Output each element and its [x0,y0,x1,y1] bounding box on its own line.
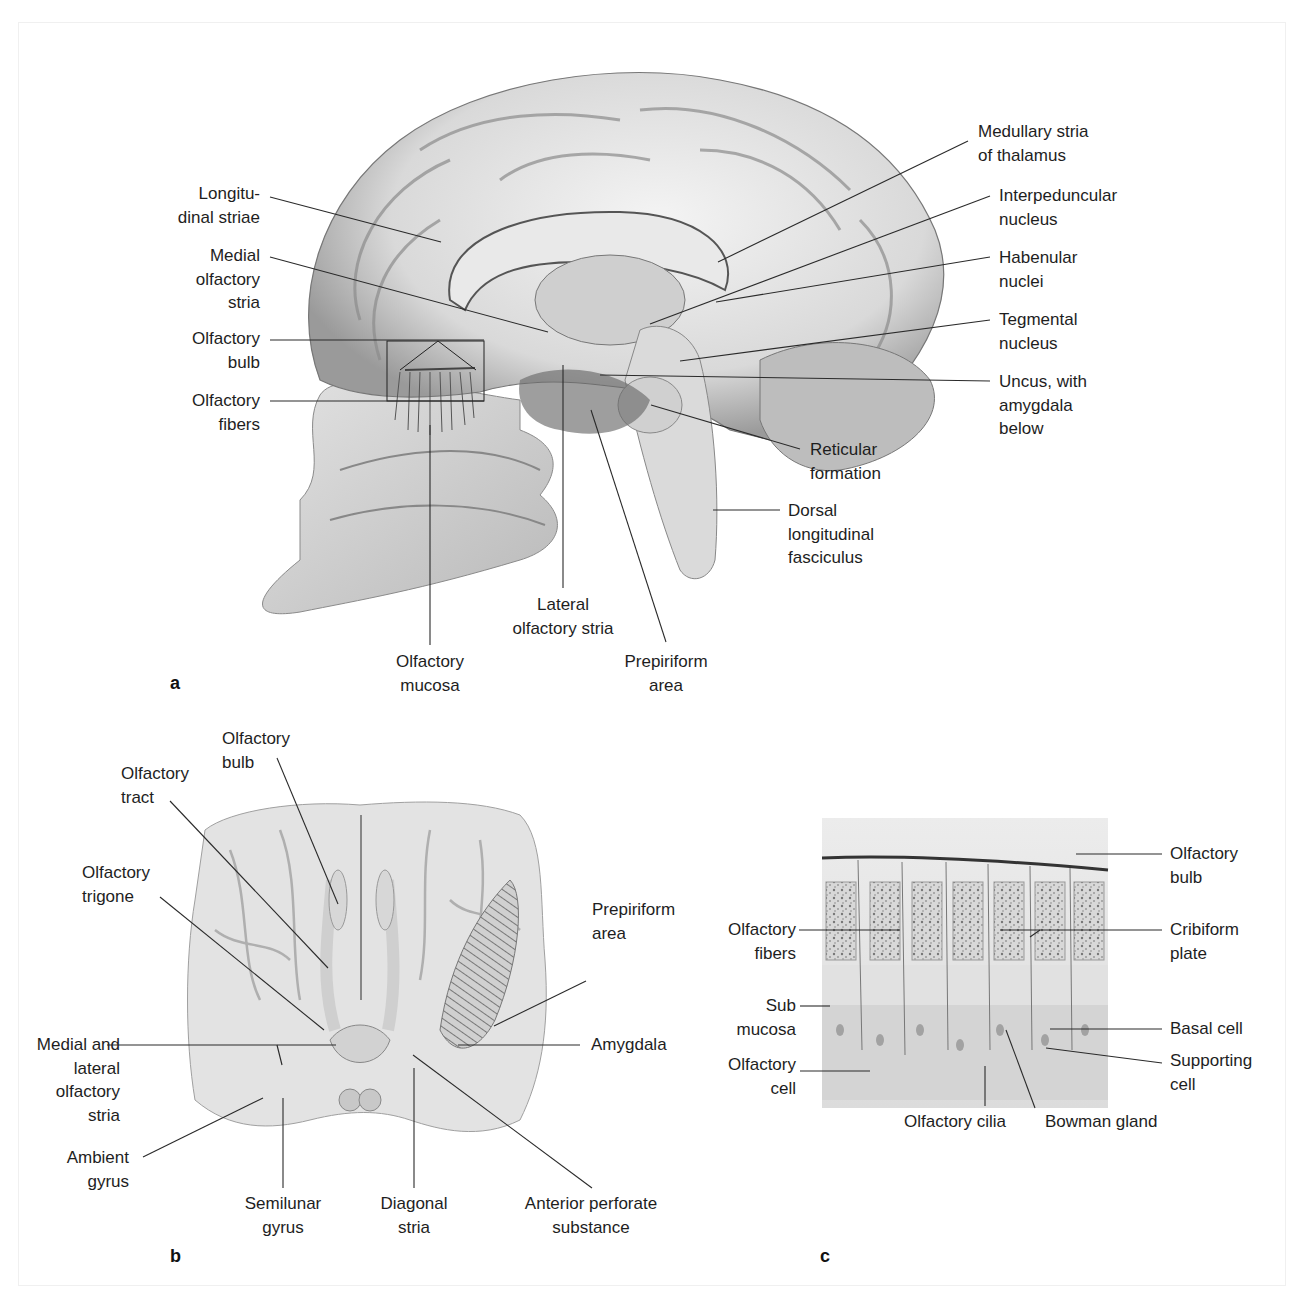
label-a-olfactory-mucosa: Olfactory mucosa [375,650,485,697]
label-c-cribiform-plate: Cribiform plate [1170,918,1239,965]
label-c-olfactory-cell: Olfactory cell [728,1053,796,1100]
label-b-amygdala: Amygdala [591,1033,667,1057]
label-b-olfactory-trigone: Olfactory trigone [82,861,150,908]
label-c-olfactory-fibers: Olfactory fibers [728,918,796,965]
panel-letter-c: c [820,1246,830,1267]
label-a-medial-olfactory-stria: Medial olfactory stria [196,244,260,315]
label-c-sub-mucosa: Sub mucosa [736,994,796,1041]
label-c-olfactory-bulb: Olfactory bulb [1170,842,1238,889]
label-b-olfactory-tract: Olfactory tract [121,762,189,809]
label-a-reticular-formation: Reticular formation [810,438,881,485]
label-a-olfactory-fibers: Olfactory fibers [192,389,260,436]
label-a-dorsal-longitudinal-fasciculus: Dorsal longitudinal fasciculus [788,499,874,570]
panel-c-art [822,818,1108,1108]
label-a-prepiriform-area: Prepiriform area [610,650,722,697]
label-b-anterior-perforate-substance: Anterior perforate substance [508,1192,674,1239]
label-a-lateral-olfactory-stria: Lateral olfactory stria [498,593,628,640]
label-b-olfactory-bulb: Olfactory bulb [222,727,290,774]
panel-b-art [188,802,547,1132]
label-a-interpeduncular-nucleus: Interpeduncular nucleus [999,184,1117,231]
label-a-uncus-amygdala: Uncus, with amygdala below [999,370,1087,441]
label-b-semilunar-gyrus: Semilunar gyrus [228,1192,338,1239]
label-c-olfactory-cilia: Olfactory cilia [904,1110,1006,1134]
label-a-medullary-stria: Medullary stria of thalamus [978,120,1089,167]
panel-letter-a: a [170,673,180,694]
label-b-medial-lateral-olfactory-stria: Medial and lateral olfactory stria [37,1033,120,1127]
panel-letter-b: b [170,1246,181,1267]
label-b-prepiriform-area: Prepiriform area [592,898,675,945]
label-c-basal-cell: Basal cell [1170,1017,1243,1041]
label-a-tegmental-nucleus: Tegmental nucleus [999,308,1077,355]
label-c-supporting-cell: Supporting cell [1170,1049,1252,1096]
label-c-bowman-gland: Bowman gland [1045,1110,1157,1134]
label-a-longitudinal-striae: Longitu- dinal striae [178,182,260,229]
label-b-diagonal-stria: Diagonal stria [364,1192,464,1239]
label-a-olfactory-bulb: Olfactory bulb [192,327,260,374]
label-b-ambient-gyrus: Ambient gyrus [67,1146,129,1193]
label-a-habenular-nuclei: Habenular nuclei [999,246,1077,293]
